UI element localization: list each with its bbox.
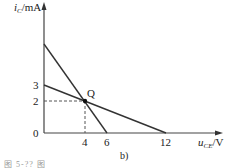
y-tick-3: 3: [33, 80, 39, 91]
x-tick-4: 4: [82, 137, 88, 148]
y-axis-label: iC/mA: [14, 2, 41, 17]
x-tick-6: 6: [104, 137, 110, 148]
figure-caption: 图 5-?? 图: [4, 158, 46, 168]
panel-label: b): [120, 150, 128, 161]
x-tick-12: 12: [160, 137, 171, 148]
y-axis-arrow-icon: [42, 2, 47, 10]
q-point-label: Q: [87, 88, 95, 99]
y-label-unit: /mA: [22, 1, 42, 13]
x-axis-arrow-icon: [215, 131, 223, 136]
q-point-marker: [83, 99, 87, 103]
y-tick-2: 2: [33, 96, 39, 107]
y-tick-0: 0: [33, 128, 39, 139]
series-line-shallow: [44, 85, 166, 133]
x-axis-label: uCE/V: [198, 137, 223, 152]
x-label-unit: /V: [212, 136, 223, 148]
